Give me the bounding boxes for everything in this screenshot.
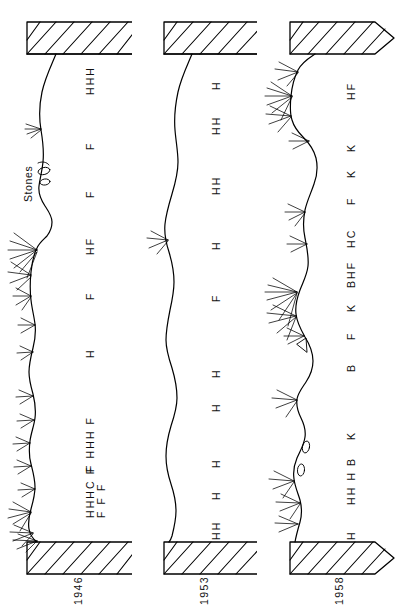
code-label: HH H B [345,457,357,505]
figure-canvas: Stones HHH F F HF F H F HHH F HHHC F F F… [0,0,397,609]
code-label: HH [210,521,222,540]
hatch-block-top-1958 [290,22,394,54]
hatch-block-bottom-1958 [290,542,394,574]
year-label-1958: 1958 [333,576,345,605]
code-label-inner: F F F [95,482,107,518]
code-label: K [345,431,357,440]
surface-profile-line-1958 [290,54,317,542]
code-label: F [345,196,357,205]
code-label: HF [84,237,96,255]
hatch-block-bottom-1946 [27,542,132,574]
code-label: F [84,189,96,198]
profile-panel-1946: Stones HHH F F HF F H F HHH F HHHC F F F… [0,0,132,609]
hatch-block-top-1953 [164,22,257,54]
code-label: F [345,331,357,340]
profile-drawing-1953 [132,0,257,609]
code-label: H [210,402,222,412]
code-label: B [345,363,357,372]
code-label: F HHH F [84,416,96,472]
annotation-stones: Stones [22,166,34,202]
code-label: F [84,141,96,150]
profile-panel-1953: H HH HH H F H H H H HH 1953 [132,0,257,609]
profile-panel-1958: HF K K F HC BHF K F B K HH H B H 1958 [257,0,397,609]
code-label: HH [210,116,222,135]
code-label: HC [345,229,357,248]
code-label: H [210,368,222,378]
hatch-block-top-1946 [27,22,132,54]
year-label-1953: 1953 [198,576,210,605]
surface-profile-line-1946 [29,54,56,542]
code-label: H [210,80,222,90]
profile-drawing-1946 [0,0,132,609]
code-label: K [345,143,357,152]
code-label: H [84,348,96,358]
code-label: HHH [84,66,96,95]
code-label: H [210,240,222,250]
year-label-1946: 1946 [72,576,84,605]
vegetation-tufts-1958 [265,62,309,532]
code-label: BHF [345,261,357,288]
code-label: K [345,303,357,312]
surface-profile-line-1953 [165,54,192,542]
code-label: H [345,530,357,540]
code-label: H [210,458,222,468]
code-label: F [210,293,222,302]
profile-drawing-1958 [257,0,397,609]
stone-shapes-1958 [297,338,311,476]
code-label: HH [210,176,222,195]
code-label: HF [345,82,357,100]
code-label: F [84,291,96,300]
code-label: K [345,169,357,178]
hatch-block-bottom-1953 [164,542,257,574]
code-label: H [210,490,222,500]
